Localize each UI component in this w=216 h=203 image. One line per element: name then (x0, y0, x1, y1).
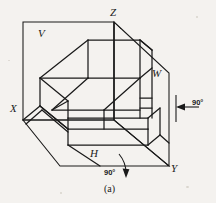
label-plane-v: V (38, 28, 45, 39)
label-axis-z: Z (110, 7, 116, 18)
w-rotation-arrow-head (176, 103, 185, 110)
h-plane-quad (23, 120, 169, 166)
paper-speck (60, 192, 62, 194)
label-axis-y: Y (171, 163, 177, 174)
object-ground-diag-b (42, 110, 68, 132)
label-axis-x: X (10, 103, 17, 114)
z-corner-tick (114, 22, 121, 29)
paper-speck (8, 60, 10, 61)
object-slab-left (40, 78, 68, 101)
annotation-rotation-h: 90° (104, 169, 115, 177)
object-step-top-slope (140, 68, 152, 78)
annotation-rotation-w: 90° (192, 99, 203, 107)
object-incline-right (104, 78, 140, 110)
object-edge-top-left-slope (40, 40, 88, 78)
corner-ticks (114, 22, 121, 29)
paper-speck (186, 186, 189, 188)
paper-speck (196, 16, 198, 18)
label-plane-w: W (152, 68, 161, 79)
figure-caption: (a) (104, 184, 115, 194)
object-ground-left-a (23, 106, 40, 120)
object-base-bottom-right-slope (148, 135, 160, 145)
object-base-rear-right-slope (148, 108, 160, 118)
h-rotation-arrow-head (123, 169, 130, 179)
object-ground-right-slope (160, 135, 169, 143)
label-plane-h: H (90, 148, 98, 159)
object-ground-left-b (26, 110, 42, 124)
object-incline-left (52, 78, 88, 110)
object-step-top-back (140, 40, 152, 50)
